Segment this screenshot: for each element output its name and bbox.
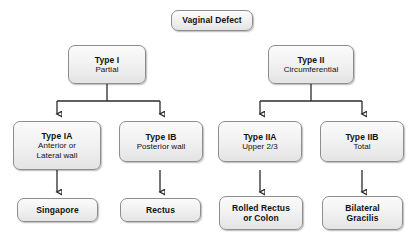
node-title: Vaginal Defect [182, 15, 242, 25]
node-subtitle: Posterior wall [137, 142, 186, 151]
node-title: Rolled Rectus [232, 203, 290, 213]
node-title: Rectus [146, 205, 175, 215]
node-type-1b[interactable]: Type IB Posterior wall [119, 121, 203, 162]
node-type-2b[interactable]: Type IIB Total [320, 121, 404, 162]
node-title: Type II [298, 55, 325, 65]
node-title: Type I [95, 55, 120, 65]
node-flap-singapore[interactable]: Singapore [17, 198, 98, 222]
node-type-1[interactable]: Type I Partial [68, 45, 146, 84]
node-subtitle-line2: Lateral wall [36, 151, 77, 160]
node-flap-rectus[interactable]: Rectus [120, 198, 201, 222]
node-title: Type IIA [243, 132, 276, 142]
node-type-2[interactable]: Type II Circumferential [268, 45, 354, 84]
node-subtitle: Upper 2/3 [242, 142, 278, 151]
node-type-1a[interactable]: Type IA Anterior or Lateral wall [13, 121, 101, 170]
node-subtitle: Anterior or [38, 141, 76, 150]
node-vaginal-defect[interactable]: Vaginal Defect [171, 10, 253, 31]
node-title-line2: Gracilis [347, 213, 379, 223]
node-flap-rolled-rectus-or-colon[interactable]: Rolled Rectus or Colon [219, 196, 303, 230]
node-title-line2: or Colon [243, 213, 279, 223]
node-type-2a[interactable]: Type IIA Upper 2/3 [218, 121, 302, 162]
flowchart-canvas: Vaginal Defect Type I Partial Type II Ci… [0, 0, 415, 249]
node-title: Type IA [42, 131, 73, 141]
node-subtitle: Circumferential [284, 65, 339, 74]
node-subtitle: Total [353, 142, 370, 151]
node-title: Bilateral [345, 203, 379, 213]
node-flap-bilateral-gracilis[interactable]: Bilateral Gracilis [322, 196, 403, 230]
node-title: Singapore [36, 205, 78, 215]
node-title: Type IB [146, 132, 177, 142]
node-title: Type IIB [345, 132, 378, 142]
node-subtitle: Partial [95, 65, 118, 74]
